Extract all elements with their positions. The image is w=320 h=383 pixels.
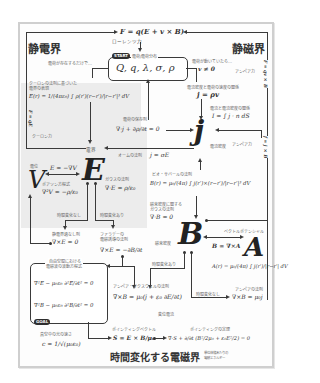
- vector-potential-integral-eq: A(r) = μ₀/(4π) ∫ j(r′)/|r−r′| dV: [212, 263, 288, 269]
- faraday-label-2: 電磁誘導の法則: [100, 236, 128, 242]
- continuity-to-j-line: [166, 130, 192, 131]
- ampere-force-eq-top: F = qv × B: [263, 60, 268, 88]
- light-speed-eq: c = 1/√(μ₀ε₀): [42, 340, 80, 347]
- maxwell-ampere-eq: ∇×B = μ₀(j + ε₀ ∂E/∂t): [113, 293, 182, 300]
- arrow-down-icon: [88, 140, 92, 144]
- b-no-time-change-label: 時間変化なし: [196, 291, 220, 297]
- goal-badge: GOAL: [34, 319, 50, 325]
- lorentz-force-eq: F = q(E + v × B): [120, 27, 184, 36]
- arrow-up-icon: [198, 158, 202, 162]
- wave-equations-box: [30, 263, 108, 324]
- arrow-right-icon: [76, 172, 80, 176]
- wave-eq-e: ∇²E − μ₀ε₀ ∂²E/∂t² = 0: [34, 280, 93, 286]
- wave-eq-b: ∇²B − μ₀ε₀ ∂²B/∂t² = 0: [34, 302, 93, 308]
- poynting-theorem-label: ポインティングの定理: [190, 326, 230, 332]
- arrow-up-icon: [146, 79, 150, 83]
- biot-savart-label: ビオ・サバールの法則: [152, 171, 192, 177]
- maxwell-ampere-label: アンペア・マクスウェルの法則: [113, 283, 169, 289]
- density-relation-eq: j = ρv: [197, 90, 219, 99]
- poisson-label: ポアソン方程式: [42, 181, 70, 187]
- arrow-right-icon: [108, 336, 112, 340]
- arrow-left-icon: [45, 172, 49, 176]
- magnetic-flux-symbol: B: [178, 216, 203, 251]
- wave-label-2: 電磁波の波動方程式: [45, 263, 83, 269]
- coulomb-integral-eq: E(r) = 1/(4πε₀) ∫ ρ(r′)(r−r′)/|r−r′|³ dV: [29, 93, 129, 99]
- ohm-eq: j = σE: [150, 151, 169, 158]
- if-moving-label: 電荷が動いていたら…: [192, 58, 232, 64]
- coulomb-down-line: [90, 102, 91, 142]
- start-badge: START: [112, 53, 130, 59]
- poynting-from-box-hline: [88, 338, 110, 339]
- vector-potential-symbol: A: [244, 232, 264, 262]
- time-change-line: [95, 184, 96, 220]
- b-a-line: [206, 237, 242, 238]
- no-time-change-hline: [65, 220, 88, 221]
- time-change-label: 時間変化あり: [100, 212, 124, 218]
- coulomb-force-eq: F = qE: [28, 110, 33, 127]
- v-e-line: [48, 174, 78, 175]
- b-time-change-line: [184, 253, 185, 269]
- coulomb-connector-down: [92, 68, 93, 78]
- branch-dot: [205, 219, 208, 222]
- gradient-eq: E = −∇V: [50, 164, 77, 171]
- heading-electrostatic: 静電界: [28, 40, 61, 56]
- gauss-eq: ∇·E = ρ/ε₀: [105, 184, 136, 191]
- time-change-hline: [95, 220, 113, 221]
- v-nonzero-eq: v ≠ 0: [198, 65, 215, 72]
- electrostatic-label: 静電界過なし則: [52, 231, 80, 237]
- no-time-change-label: 時間変化なし: [57, 212, 81, 218]
- light-speed-label: 真空中の光の速さ: [40, 331, 72, 337]
- curl-e-zero-eq: ∇×E = 0: [52, 238, 78, 245]
- v-to-j-vline: [196, 68, 197, 82]
- b-time-change-label: 時間変化あり: [152, 261, 176, 267]
- b-no-time-change-line: [191, 253, 192, 297]
- magnetic-flux-label: 磁束密度: [155, 240, 171, 246]
- poynting-from-box-vline: [88, 322, 89, 338]
- vector-potential-eq: B = ∇×A: [212, 242, 240, 249]
- ampere-force-label-2: アンペア力: [232, 141, 252, 147]
- current-density-symbol: j: [194, 114, 204, 147]
- arrow-left-icon: [215, 128, 219, 132]
- faraday-hline: [122, 266, 134, 267]
- poisson-eq: ∇²V = −ρ/ε₀: [42, 188, 78, 195]
- arrow-right-icon: [114, 30, 118, 34]
- no-time-change-line: [87, 184, 88, 220]
- heading-time-varying: 時間変化する電磁界: [110, 349, 200, 364]
- arrow-left-icon: [183, 30, 187, 34]
- charge-symbols: Q, q, λ, σ, ρ: [116, 62, 175, 73]
- current-density-label: 電流密度: [210, 143, 226, 149]
- biot-down-line: [196, 196, 197, 216]
- ampere-law-eq: ∇×B = μ₀j: [232, 293, 263, 300]
- energy-density-label-2: 電磁エネルギー: [204, 355, 225, 360]
- arrow-right-icon: [226, 295, 230, 299]
- lorentz-force-label: ローレンツ力: [112, 38, 142, 44]
- b-right-hline: [207, 220, 267, 221]
- ampere-hook-vline: [261, 130, 262, 138]
- continuity-label: 電荷の保存則: [123, 116, 147, 122]
- arrow-down-icon: [138, 48, 142, 52]
- arrow-down-icon: [111, 225, 115, 229]
- gauss-label: ガウスの法則: [105, 176, 129, 182]
- displacement-current-label: 変位電流: [158, 311, 174, 317]
- biot-savart-eq: B(r) = μ₀/(4π) ∫ j(r′)×(r−r′)/|r−r′|³ dV: [150, 180, 250, 186]
- v-to-j-line: [186, 68, 196, 69]
- top-connector-left: [26, 32, 116, 33]
- branch-dot: [121, 255, 124, 258]
- continuity-up-line: [148, 80, 149, 120]
- ampere-law-label: アンペアの法則: [235, 286, 263, 292]
- ohm-label: オームの法則: [118, 152, 142, 158]
- continuity-eq: ∇·j + ∂ρ/∂t = 0: [116, 125, 160, 132]
- arrow-up-icon: [28, 194, 32, 198]
- b-no-time-change-hline: [191, 297, 227, 298]
- coulomb-force-label: クーロン力: [32, 133, 52, 139]
- wave-connector-line: [110, 266, 122, 267]
- current-relation-eq: I = ∫ j · n dS: [212, 112, 250, 119]
- poynting-vector-label: ポインティングベクトル: [112, 326, 156, 332]
- ampere-hook-line: [218, 130, 262, 131]
- coulomb-to-e-hline: [26, 148, 86, 149]
- ohm-line: [108, 148, 194, 149]
- arrow-left-icon: [203, 235, 207, 239]
- b-gauss-label-2: ガウスの法則: [150, 206, 174, 212]
- poynting-vector-eq: S = E × B/μ₀: [113, 334, 155, 341]
- arrow-right-icon: [163, 336, 167, 340]
